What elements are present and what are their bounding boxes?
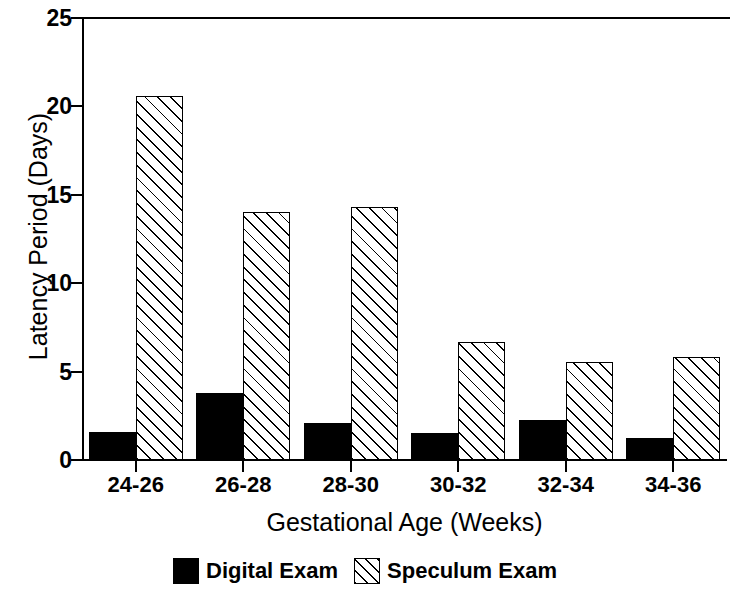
y-tick-label: 0	[26, 449, 72, 472]
y-tick-label: 15	[26, 184, 72, 207]
y-tick-label: 20	[26, 95, 72, 118]
y-tick-mark	[71, 282, 82, 284]
x-tick-label: 28-30	[297, 472, 405, 498]
bar-chart: Latency Period (Days) 0510152025 24-2626…	[0, 0, 730, 600]
x-tick-mark	[672, 460, 674, 472]
y-tick-mark	[71, 17, 82, 19]
y-tick-mark	[71, 194, 82, 196]
x-tick-label: 24-26	[82, 472, 190, 498]
plot-top-border	[82, 17, 730, 19]
y-tick-mark	[71, 459, 82, 461]
x-tick-label: 32-34	[512, 472, 620, 498]
bar-speculum-exam	[458, 342, 505, 460]
bar-digital-exam	[626, 438, 673, 460]
x-tick-label: 34-36	[620, 472, 728, 498]
bar-speculum-exam	[136, 96, 183, 460]
y-tick-label: 5	[26, 361, 72, 384]
legend-swatch-solid-icon	[173, 558, 199, 584]
bar-speculum-exam	[673, 357, 720, 460]
x-tick-label: 30-32	[405, 472, 513, 498]
legend-label: Speculum Exam	[387, 558, 557, 584]
y-tick-mark	[71, 105, 82, 107]
x-tick-mark	[242, 460, 244, 472]
y-axis-line	[82, 18, 84, 461]
bar-digital-exam	[196, 393, 243, 460]
legend-label: Digital Exam	[206, 558, 338, 584]
bar-speculum-exam	[566, 362, 613, 460]
legend-entry: Speculum Exam	[354, 558, 557, 584]
x-tick-mark	[350, 460, 352, 472]
x-tick-mark	[457, 460, 459, 472]
chart-legend: Digital ExamSpeculum Exam	[0, 558, 730, 584]
y-tick-mark	[71, 371, 82, 373]
y-tick-label: 10	[26, 272, 72, 295]
legend-swatch-hatch-icon	[354, 558, 380, 584]
bar-digital-exam	[519, 420, 566, 460]
bar-digital-exam	[411, 433, 458, 460]
bar-speculum-exam	[351, 207, 398, 460]
legend-entry: Digital Exam	[173, 558, 338, 584]
x-tick-label: 26-28	[190, 472, 298, 498]
bar-digital-exam	[89, 432, 136, 460]
bar-speculum-exam	[243, 212, 290, 460]
x-tick-mark	[135, 460, 137, 472]
x-axis-title: Gestational Age (Weeks)	[82, 508, 727, 537]
x-tick-mark	[565, 460, 567, 472]
plot-area	[82, 18, 727, 460]
y-tick-label: 25	[26, 7, 72, 30]
y-axis-tick-labels: 0510152025	[20, 0, 72, 600]
bar-digital-exam	[304, 423, 351, 460]
